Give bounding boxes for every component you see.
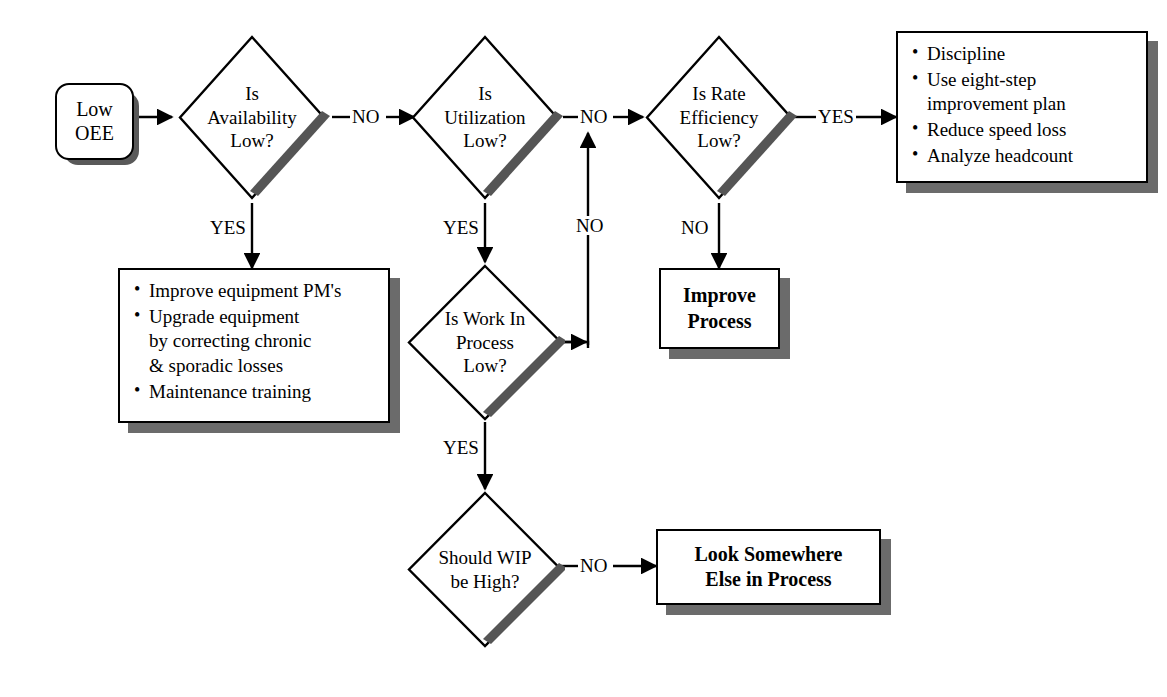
edge-label-wip-high-no: NO (578, 556, 609, 575)
availability-actions-list: Improve equipment PM's Upgrade equipment… (134, 279, 376, 404)
node-rate-efficiency-actions[interactable]: Discipline Use eight-step improvement pl… (896, 31, 1158, 193)
list-item: Improve equipment PM's (134, 279, 376, 304)
edge-label-rate-no: NO (679, 218, 710, 237)
node-look-somewhere-else[interactable]: Look Somewhere Else in Process (656, 529, 891, 615)
node-availability-actions[interactable]: Improve equipment PM's Upgrade equipment… (118, 268, 400, 433)
availability-actions-box: Improve equipment PM's Upgrade equipment… (118, 268, 390, 423)
look-somewhere-else-label: Look Somewhere Else in Process (695, 542, 843, 592)
list-item: Reduce speed loss (912, 118, 1134, 143)
wip-low-diamond-shape (405, 262, 565, 423)
list-item: Use eight-step improvement plan (912, 68, 1134, 117)
utilization-diamond-shape (405, 32, 565, 203)
improve-process-box: Improve Process (659, 268, 780, 349)
list-item: Discipline (912, 42, 1134, 67)
rate-efficiency-diamond-shape (639, 32, 799, 203)
edge-label-rate-yes: YES (816, 107, 856, 126)
edge-label-availability-yes: YES (208, 218, 248, 237)
look-somewhere-else-box: Look Somewhere Else in Process (656, 529, 881, 605)
edge-label-utilization-no: NO (578, 107, 609, 126)
flowchart-canvas: Low OEE Is Availability Low? NO YES Is U… (0, 0, 1167, 697)
list-item: Analyze headcount (912, 144, 1134, 169)
node-should-wip-be-high[interactable]: Should WIP be High? (405, 489, 565, 650)
edge-label-wip-low-no: NO (574, 216, 605, 235)
node-improve-process[interactable]: Improve Process (659, 268, 790, 359)
node-is-utilization-low[interactable]: Is Utilization Low? (405, 32, 565, 203)
list-item: Upgrade equipment by correcting chronic … (134, 305, 376, 379)
low-oee-box: Low OEE (55, 83, 134, 160)
list-item: Maintenance training (134, 380, 376, 405)
rate-efficiency-actions-box: Discipline Use eight-step improvement pl… (896, 31, 1148, 183)
node-is-work-in-process-low[interactable]: Is Work In Process Low? (405, 262, 565, 423)
edge-label-utilization-yes: YES (441, 218, 481, 237)
rate-efficiency-actions-list: Discipline Use eight-step improvement pl… (912, 42, 1134, 168)
low-oee-label: Low OEE (75, 98, 114, 145)
node-is-rate-efficiency-low[interactable]: Is Rate Efficiency Low? (639, 32, 799, 203)
edge-label-wip-low-yes: YES (441, 438, 481, 457)
wip-high-diamond-shape (405, 489, 565, 650)
availability-diamond-shape (172, 32, 332, 203)
wire-wip-low-no (561, 342, 588, 348)
improve-process-label: Improve Process (683, 283, 756, 333)
edge-label-availability-no: NO (350, 107, 381, 126)
node-is-availability-low[interactable]: Is Availability Low? (172, 32, 332, 203)
node-low-oee[interactable]: Low OEE (55, 83, 139, 165)
